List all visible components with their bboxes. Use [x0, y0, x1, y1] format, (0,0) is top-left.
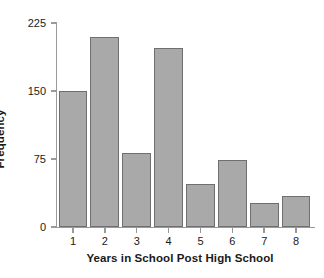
x-axis-tick-label: 5	[197, 235, 203, 247]
x-axis-tick	[72, 228, 73, 233]
x-axis-tick	[168, 228, 169, 233]
x-axis-tick	[136, 228, 137, 233]
y-axis-tick-label: 75	[34, 153, 46, 165]
y-axis-tick-label: 150	[28, 85, 46, 97]
x-axis-tick-label: 7	[261, 235, 267, 247]
x-axis-tick	[200, 228, 201, 233]
x-axis-tick-label: 1	[70, 235, 76, 247]
bar	[250, 203, 279, 227]
bar	[122, 153, 151, 227]
bar-chart: Frequency 075150225 Years in School Post…	[0, 0, 324, 278]
x-axis-tick	[232, 228, 233, 233]
bar	[282, 196, 311, 227]
x-axis-tick	[104, 228, 105, 233]
x-axis-tick-label: 3	[134, 235, 140, 247]
bar	[59, 91, 88, 227]
x-axis-tick	[295, 228, 296, 233]
y-axis-tick-label: 0	[40, 221, 46, 233]
bar	[186, 184, 215, 227]
x-axis-tick-label: 8	[293, 235, 299, 247]
x-axis-tick-label: 6	[229, 235, 235, 247]
bar	[218, 160, 247, 227]
plot-area	[57, 23, 312, 227]
bar	[90, 37, 119, 227]
x-axis-tick-label: 4	[166, 235, 172, 247]
bar	[154, 48, 183, 227]
y-axis-ticks: 075150225	[0, 0, 56, 278]
x-axis-tick	[263, 228, 264, 233]
x-axis-tick-label: 2	[102, 235, 108, 247]
y-axis-tick-label: 225	[28, 17, 46, 29]
x-axis-title: Years in School Post High School	[45, 252, 315, 264]
